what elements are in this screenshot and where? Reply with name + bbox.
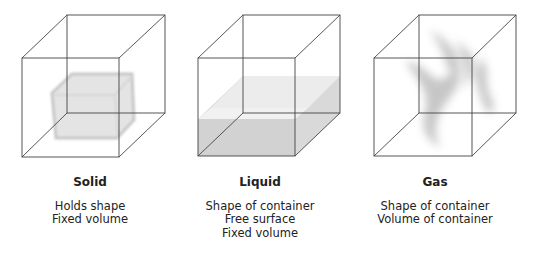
ice-cube xyxy=(52,74,134,138)
gas-wisps xyxy=(405,30,494,148)
gas-container xyxy=(374,15,516,156)
solid-property: Fixed volume xyxy=(0,213,180,227)
gas-property: Shape of container xyxy=(345,200,525,214)
gas-title: Gas xyxy=(345,176,525,190)
solid-property: Holds shape xyxy=(0,200,180,214)
solid-panel: Solid Holds shape Fixed volume xyxy=(0,176,180,227)
liquid-title: Liquid xyxy=(170,176,350,190)
liquid-panel: Liquid Shape of container Free surface F… xyxy=(170,176,350,240)
solid-title: Solid xyxy=(0,176,180,190)
liquid-property: Fixed volume xyxy=(170,227,350,241)
gas-property: Volume of container xyxy=(345,213,525,227)
gas-panel: Gas Shape of container Volume of contain… xyxy=(345,176,525,227)
liquid-property: Shape of container xyxy=(170,200,350,214)
liquid-container xyxy=(198,15,340,156)
solid-container xyxy=(22,15,165,157)
liquid-property: Free surface xyxy=(170,213,350,227)
